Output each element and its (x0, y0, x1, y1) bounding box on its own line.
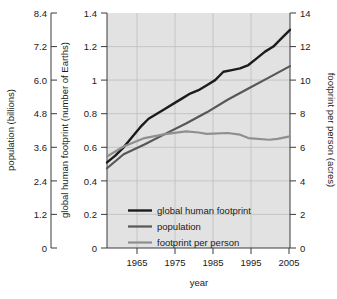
x-axis-tick-0: 1965 (126, 257, 147, 268)
line-chart: 8.4 7.2 6.0 4.8 3.6 2.4 1.2 0 population… (0, 0, 337, 299)
right-axis-tick-5: 4 (300, 176, 305, 187)
x-axis-tick-1: 1975 (164, 257, 185, 268)
inner-left-axis-tick-6: 0.2 (84, 209, 97, 220)
left-axis-tick-0: 8.4 (34, 8, 47, 19)
left-axis-tick-7: 0 (42, 243, 47, 254)
x-axis-year: 1965 1975 1985 1995 2005 year (107, 248, 300, 288)
inner-left-axis-tick-1: 1.2 (84, 41, 97, 52)
left-axis-tick-4: 3.6 (34, 142, 47, 153)
inner-left-axis-tick-3: 0.8 (84, 108, 97, 119)
right-axis-title: footprint per person (acres) (326, 73, 337, 188)
left-axis-tick-3: 4.8 (34, 108, 47, 119)
x-axis-tick-4: 2005 (278, 257, 299, 268)
left-axis-tick-5: 2.4 (34, 176, 47, 187)
left-axis-tick-1: 7.2 (34, 41, 47, 52)
right-axis-tick-4: 6 (300, 142, 305, 153)
legend-label-footprint-per-person: footprint per person (157, 237, 239, 248)
right-axis-tick-3: 8 (300, 108, 305, 119)
x-axis-tick-3: 1995 (240, 257, 261, 268)
x-axis-title: year (190, 277, 208, 288)
inner-left-axis-footprint: 1.4 1.2 1 0.8 0.6 0.4 0.2 0 global human… (59, 8, 107, 254)
left-axis-population: 8.4 7.2 6.0 4.8 3.6 2.4 1.2 0 population… (5, 8, 57, 254)
left-axis-tick-2: 6.0 (34, 75, 47, 86)
left-axis-tick-6: 1.2 (34, 209, 47, 220)
inner-left-axis-tick-0: 1.4 (84, 8, 97, 19)
inner-left-axis-title: global human footprint (number of Earths… (59, 42, 70, 218)
legend-label-global-human-footprint: global human footprint (157, 205, 251, 216)
right-axis-tick-7: 0 (300, 243, 305, 254)
inner-left-axis-tick-5: 0.4 (84, 176, 97, 187)
inner-left-axis-tick-2: 1 (92, 75, 97, 86)
chart-container: 8.4 7.2 6.0 4.8 3.6 2.4 1.2 0 population… (0, 0, 337, 299)
right-axis-tick-0: 14 (300, 8, 311, 19)
left-axis-title: population (billions) (5, 89, 16, 171)
inner-left-axis-tick-7: 0 (92, 243, 97, 254)
right-axis-tick-6: 2 (300, 209, 305, 220)
x-axis-tick-2: 1985 (202, 257, 223, 268)
legend-label-population: population (157, 221, 201, 232)
right-axis-tick-1: 12 (300, 41, 311, 52)
right-axis-tick-2: 10 (300, 75, 311, 86)
inner-left-axis-tick-4: 0.6 (84, 142, 97, 153)
right-axis-footprint-per-person: 14 12 10 8 6 4 2 0 footprint per person … (290, 8, 337, 254)
